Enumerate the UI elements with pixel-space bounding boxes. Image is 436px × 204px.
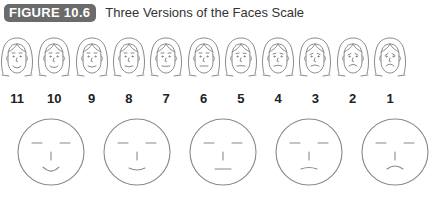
illustrated-face xyxy=(0,36,35,80)
face-number: 6 xyxy=(186,91,222,106)
illustrated-face xyxy=(148,36,184,80)
figure-badge: FIGURE 10.6 xyxy=(4,4,96,22)
simple-face xyxy=(101,116,173,188)
illustrated-face xyxy=(335,36,371,80)
illustrated-face xyxy=(111,36,147,80)
illustrated-faces-row xyxy=(0,36,436,86)
face-number: 10 xyxy=(36,91,72,106)
illustrated-face xyxy=(297,36,333,80)
face-number: 4 xyxy=(260,91,296,106)
illustrated-face xyxy=(223,36,259,80)
face-number: 9 xyxy=(74,91,110,106)
simple-face xyxy=(187,116,259,188)
simple-face xyxy=(359,116,431,188)
simple-face xyxy=(273,116,345,188)
illustrated-face xyxy=(74,36,110,80)
simple-face xyxy=(15,116,87,188)
illustrated-face xyxy=(186,36,222,80)
figure-header: FIGURE 10.6 Three Versions of the Faces … xyxy=(4,4,304,22)
face-number: 11 xyxy=(0,91,35,106)
face-number: 5 xyxy=(223,91,259,106)
figure-title: Three Versions of the Faces Scale xyxy=(105,5,304,21)
illustrated-face xyxy=(372,36,408,80)
face-number: 2 xyxy=(335,91,371,106)
face-number: 3 xyxy=(297,91,333,106)
illustrated-face xyxy=(36,36,72,80)
face-number: 8 xyxy=(111,91,147,106)
face-number-labels: 1110987654321 xyxy=(0,91,436,107)
face-number: 7 xyxy=(148,91,184,106)
simple-faces-row xyxy=(0,116,436,188)
face-number: 1 xyxy=(372,91,408,106)
illustrated-face xyxy=(260,36,296,80)
